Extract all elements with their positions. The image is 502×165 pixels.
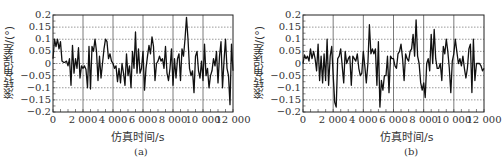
x-tick-label: 4 000 [349,115,378,125]
y-tick-label: −0.05 [17,71,51,81]
y-tick-label: 0.15 [267,22,301,32]
y-tick-label: 0.2 [267,10,301,20]
x-tick-label: 4 000 [99,115,128,125]
x-tick-label: 0 [300,115,306,125]
panel-caption: (a) [134,146,148,157]
x-axis-label: 仿真时间/s [111,128,164,144]
chart-panel-b: 滚转角误差/(°) 仿真时间/s (b) 0.20.150.10.050−0.0… [250,0,497,165]
x-tick-label: 2 000 [69,115,98,125]
panel-caption: (b) [404,146,418,157]
x-tick-label: 12 000 [467,115,502,125]
y-tick-label: −0.2 [267,107,301,117]
y-tick-label: 0.05 [267,46,301,56]
y-tick-label: −0.1 [267,83,301,93]
chart-panel-a: 滚转角误差/(°) 仿真时间/s (a) 0.20.150.10.050−0.0… [0,0,248,165]
x-tick-label: 2 000 [319,115,348,125]
y-tick-label: −0.2 [17,107,51,117]
y-tick-label: 0 [267,59,301,69]
y-tick-label: 0 [17,59,51,69]
x-tick-label: 6 000 [379,115,408,125]
x-tick-label: 8 000 [159,115,188,125]
x-tick-label: 0 [50,115,56,125]
x-axis-label: 仿真时间/s [380,128,433,144]
y-tick-label: 0.1 [17,34,51,44]
x-tick-label: 12 000 [216,115,251,125]
x-tick-label: 6 000 [129,115,158,125]
y-tick-label: 0.05 [17,46,51,56]
y-tick-label: −0.15 [267,95,301,105]
y-tick-label: −0.1 [17,83,51,93]
y-tick-label: 0.1 [267,34,301,44]
y-tick-label: −0.05 [267,71,301,81]
y-tick-label: 0.15 [17,22,51,32]
y-tick-label: 0.2 [17,10,51,20]
x-tick-label: 8 000 [409,115,438,125]
y-tick-label: −0.15 [17,95,51,105]
